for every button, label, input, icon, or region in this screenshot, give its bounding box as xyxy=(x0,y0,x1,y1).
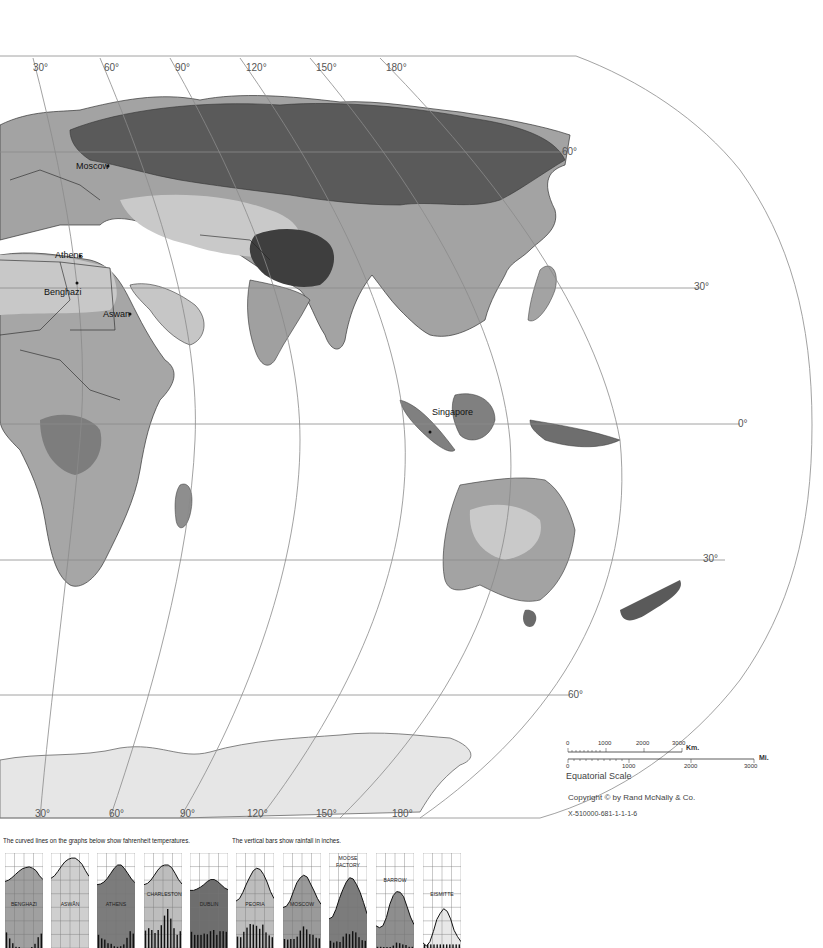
city-athens: Athens xyxy=(55,250,83,260)
japan xyxy=(528,266,556,321)
city-singapore: Singapore xyxy=(432,407,473,417)
temperature-caption: The curved lines on the graphs below sho… xyxy=(3,836,190,845)
lat-label-0: 0° xyxy=(738,418,748,429)
lon-label-top-30: 30° xyxy=(33,62,48,73)
climograph-peoria: PEORIA xyxy=(236,853,274,948)
climograph-benghazi: BENGHAZI xyxy=(5,853,43,948)
km-tick-3000: 3000 xyxy=(672,740,685,746)
scale-caption: Equatorial Scale xyxy=(566,771,632,781)
climograph-barrow: BARROW xyxy=(376,853,414,948)
city-benghazi: Benghazi xyxy=(44,287,82,297)
climograph-label: CHARLESTON xyxy=(147,891,179,898)
city-aswan: Aswan xyxy=(103,309,130,319)
climograph-asw-n: ASWÂN xyxy=(51,853,89,948)
tasmania xyxy=(523,610,536,627)
lon-label-bottom-30: 30° xyxy=(35,808,50,819)
india xyxy=(248,280,310,365)
climograph-athens: ATHENS xyxy=(97,853,135,948)
climograph-charleston: CHARLESTON xyxy=(144,853,182,948)
km-tick-2000: 2000 xyxy=(636,740,649,746)
lat-label-60s: 60° xyxy=(568,689,583,700)
climograph-label: MOOSE FACTORY xyxy=(332,855,364,869)
climograph-label: PEORIA xyxy=(239,901,271,908)
rainfall-caption: The vertical bars show rainfall in inche… xyxy=(232,836,341,845)
climographs: BENGHAZIASWÂNATHENSCHARLESTONDUBLINPEORI… xyxy=(0,853,823,948)
lat-label-60n: 60° xyxy=(562,146,577,157)
lon-label-top-180: 180° xyxy=(386,62,407,73)
mi-unit: Mi. xyxy=(759,754,769,761)
catalog-code: X-510000-681-1-1-1-6 xyxy=(568,810,637,817)
climograph-label: ATHENS xyxy=(100,901,132,908)
climograph-label: BENGHAZI xyxy=(8,901,40,908)
equatorial-scale: 0 1000 2000 3000 Km. 0 1000 2000 3000 Mi… xyxy=(566,740,796,790)
mi-tick-3000: 3000 xyxy=(744,763,757,769)
lon-label-bottom-150: 150° xyxy=(316,808,337,819)
lon-label-top-90: 90° xyxy=(175,62,190,73)
lon-label-bottom-120: 120° xyxy=(247,808,268,819)
lon-label-top-120: 120° xyxy=(246,62,267,73)
mi-tick-1000: 1000 xyxy=(622,763,635,769)
lon-label-bottom-60: 60° xyxy=(109,808,124,819)
climograph-label: DUBLIN xyxy=(193,901,225,908)
antarctica xyxy=(0,733,471,818)
new-zealand xyxy=(620,580,681,620)
lon-label-bottom-90: 90° xyxy=(180,808,195,819)
climograph-eismitte: EISMITTE xyxy=(423,853,461,948)
climate-map: 30° 60° 90° 120° 150° 180° 30° 60° 90° 1… xyxy=(0,0,823,830)
km-tick-0: 0 xyxy=(566,740,569,746)
lat-label-30n: 30° xyxy=(694,281,709,292)
climograph-moscow: MOSCOW xyxy=(283,853,321,948)
lat-label-30s: 30° xyxy=(703,553,718,564)
mi-tick-0: 0 xyxy=(566,763,569,769)
lon-label-top-150: 150° xyxy=(316,62,337,73)
map-graphic xyxy=(0,0,823,830)
km-unit: Km. xyxy=(686,744,699,751)
climograph-label: MOSCOW xyxy=(286,901,318,908)
climograph-label: BARROW xyxy=(379,877,411,884)
lon-label-top-60: 60° xyxy=(104,62,119,73)
copyright-text: Copyright © by Rand McNally & Co. xyxy=(568,793,695,802)
mi-tick-2000: 2000 xyxy=(684,763,697,769)
km-tick-1000: 1000 xyxy=(598,740,611,746)
climograph-dublin: DUBLIN xyxy=(190,853,228,948)
climograph-moose-factory: MOOSE FACTORY xyxy=(329,853,367,948)
climograph-label: EISMITTE xyxy=(426,891,458,898)
city-moscow: Moscow xyxy=(76,161,109,171)
climograph-label: ASWÂN xyxy=(54,901,86,908)
tibet-zone xyxy=(250,229,334,287)
lon-label-bottom-180: 180° xyxy=(392,808,413,819)
